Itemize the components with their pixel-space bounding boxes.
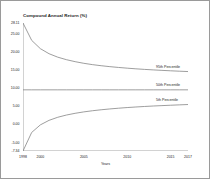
y-axis-tick-label: 28.11 (1, 21, 20, 25)
chart-title: Compound Annual Return (%) (23, 13, 87, 18)
y-axis-tick-label: 25.00 (1, 32, 20, 36)
x-axis-title: Years (101, 162, 110, 166)
y-axis-tick-label: -7.34 (1, 149, 20, 153)
y-axis-tick-label: 15.00 (1, 68, 20, 72)
x-axis-tick-label: 2010 (123, 155, 131, 159)
x-axis-tick-label: 2015 (167, 155, 175, 159)
x-axis-tick-label: 2017 (184, 155, 192, 159)
y-axis-tick-label: -5.00 (1, 141, 20, 145)
y-axis-tick-label: 20.00 (1, 50, 20, 54)
y-axis-tick-label: 0.00 (1, 122, 20, 126)
series-label-2: 5th Percentile (156, 98, 178, 102)
y-axis-tick-label: 10.00 (1, 86, 20, 90)
plot-area (23, 23, 188, 151)
series-label-1: 50th Percentile (156, 83, 180, 87)
x-axis-tick-label: 1998 (19, 155, 27, 159)
x-axis-tick-label: 2005 (80, 155, 88, 159)
series-label-0: 95th Percentile (156, 65, 180, 69)
x-axis-tick-label: 2000 (36, 155, 44, 159)
chart-svg (23, 23, 188, 151)
series-line-2 (23, 105, 188, 151)
y-axis-tick-label: 5.00 (1, 104, 20, 108)
chart-figure: Compound Annual Return (%) 28.1125.0020.… (0, 0, 210, 179)
